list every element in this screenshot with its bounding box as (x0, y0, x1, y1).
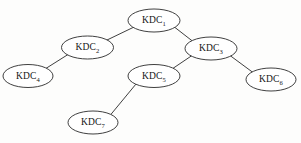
tree-canvas: KDC1KDC2KDC3KDC4KDC5KDC6KDC7 (0, 0, 301, 143)
node-kdc1[interactable]: KDC1 (128, 9, 180, 32)
node-kdc3[interactable]: KDC3 (185, 37, 237, 60)
node-kdc7[interactable]: KDC7 (68, 111, 118, 134)
kdc-tree-diagram: KDC1KDC2KDC3KDC4KDC5KDC6KDC7 (0, 0, 301, 143)
node-kdc2[interactable]: KDC2 (62, 36, 114, 59)
edge-kdc2-kdc4 (45, 55, 68, 70)
edge-kdc3-kdc5 (172, 56, 192, 70)
edge-kdc1-kdc3 (175, 28, 193, 42)
edge-kdc5-kdc7 (110, 84, 136, 116)
node-kdc6[interactable]: KDC6 (246, 68, 296, 91)
nodes-group: KDC1KDC2KDC3KDC4KDC5KDC6KDC7 (3, 9, 296, 134)
node-kdc5[interactable]: KDC5 (128, 65, 180, 88)
edge-kdc3-kdc6 (230, 56, 253, 73)
edge-kdc1-kdc2 (106, 28, 133, 41)
node-kdc4[interactable]: KDC4 (3, 65, 53, 88)
